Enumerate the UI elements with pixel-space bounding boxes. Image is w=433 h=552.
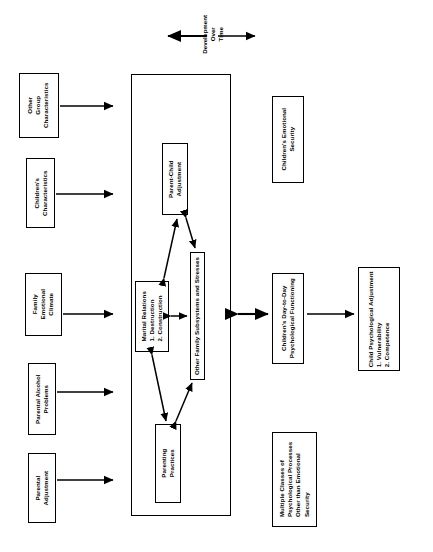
arrow-marital-parenting [152,355,166,421]
figure-canvas: Development Over Time Other Group Charac… [0,0,433,552]
arrow-layer [0,0,433,552]
arrow-parentchild-subsystems [186,218,195,248]
arrow-parenting-subsystems [176,383,192,421]
arrow-marital-parentchild [164,219,177,278]
